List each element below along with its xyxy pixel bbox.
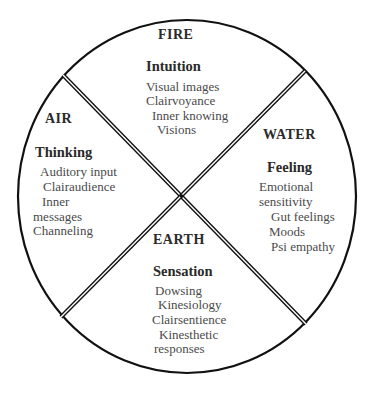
- element-label-fire: FIRE: [158, 28, 193, 42]
- list-item: Moods: [269, 225, 305, 238]
- function-label-feeling: Feeling: [267, 160, 312, 175]
- list-item: Emotional: [259, 180, 313, 193]
- list-item: Inner: [42, 195, 69, 208]
- list-item: Channeling: [33, 224, 93, 237]
- element-label-air: AIR: [45, 112, 72, 126]
- function-label-thinking: Thinking: [35, 145, 92, 160]
- list-item: Kinesthetic: [159, 328, 218, 341]
- function-label-sensation: Sensation: [153, 264, 213, 279]
- list-item: Inner knowing: [152, 109, 228, 122]
- element-label-earth: EARTH: [153, 233, 205, 247]
- element-label-water: WATER: [263, 128, 316, 142]
- list-item: sensitivity: [259, 195, 312, 208]
- list-item: Clairvoyance: [146, 94, 215, 107]
- list-item: messages: [33, 210, 82, 223]
- list-item: Clairaudience: [43, 180, 115, 193]
- list-item: Visual images: [146, 80, 219, 93]
- list-item: Gut feelings: [271, 210, 335, 223]
- list-item: responses: [154, 342, 205, 355]
- list-item: Clairsentience: [152, 313, 226, 326]
- function-label-intuition: Intuition: [146, 59, 201, 74]
- list-item: Auditory input: [40, 165, 117, 178]
- list-item: Psi empathy: [271, 240, 335, 253]
- center-crossing: [180, 194, 184, 198]
- list-item: Dowsing: [155, 284, 202, 297]
- list-item: Visions: [157, 123, 196, 136]
- list-item: Kinesiology: [158, 298, 222, 311]
- elements-diagram: FIRE Intuition Visual images Clairvoyanc…: [0, 0, 372, 396]
